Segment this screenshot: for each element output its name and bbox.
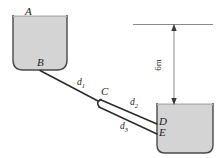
height-dimension bbox=[171, 24, 176, 105]
label-point-e: E bbox=[159, 127, 166, 138]
junction-c bbox=[98, 100, 101, 108]
junction-c-cap bbox=[98, 100, 101, 108]
label-pipe-d3: d3 bbox=[120, 122, 128, 133]
label-pipe-d2-sub: 2 bbox=[135, 102, 138, 109]
label-point-a: A bbox=[25, 6, 32, 17]
label-point-b: B bbox=[37, 57, 44, 68]
pipe-d1 bbox=[40, 71, 98, 102]
label-point-c: C bbox=[101, 86, 108, 97]
hydraulics-figure: A B C D E d1 d2 d3 6m bbox=[0, 0, 224, 158]
figure-canvas bbox=[0, 0, 224, 158]
label-height-dimension: 6m bbox=[153, 59, 163, 71]
label-pipe-d1-sub: 1 bbox=[82, 82, 85, 89]
label-pipe-d1: d1 bbox=[77, 78, 85, 89]
label-pipe-d3-sub: 3 bbox=[125, 126, 128, 133]
label-pipe-d2: d2 bbox=[130, 98, 138, 109]
pipe-d1-line bbox=[40, 71, 98, 102]
dimension-arrow-up bbox=[171, 24, 176, 31]
